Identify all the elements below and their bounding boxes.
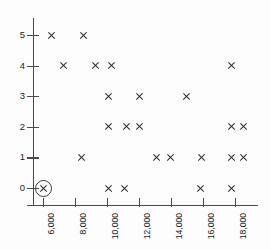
y-tick-2: [27, 127, 39, 128]
data-point[interactable]: [182, 92, 191, 101]
data-point[interactable]: [91, 61, 100, 70]
x-tick-label-16000: 16,000: [207, 213, 216, 239]
y-tick-1: [27, 157, 39, 158]
x-tick-label-18000: 18,000: [239, 213, 248, 239]
data-point[interactable]: [135, 92, 144, 101]
data-point[interactable]: [77, 153, 86, 162]
y-tick-label-3: 3: [12, 91, 25, 101]
x-tick-16000: [203, 198, 204, 207]
x-tick-14000: [171, 198, 172, 207]
x-tick-label-12000: 12,000: [143, 213, 152, 239]
data-point[interactable]: [59, 61, 68, 70]
y-tick-label-4: 4: [12, 61, 25, 71]
x-tick-12000: [139, 198, 140, 207]
data-point[interactable]: [104, 122, 113, 131]
data-point[interactable]: [135, 122, 144, 131]
y-tick-label-5: 5: [12, 30, 25, 40]
data-point[interactable]: [227, 153, 236, 162]
data-point[interactable]: [107, 61, 116, 70]
y-tick-label-0: 0: [12, 183, 25, 193]
data-point[interactable]: [227, 61, 236, 70]
data-point[interactable]: [79, 31, 88, 40]
data-point[interactable]: [196, 184, 205, 193]
data-point[interactable]: [104, 92, 113, 101]
x-tick-6000: [43, 198, 44, 207]
data-point[interactable]: [227, 184, 236, 193]
x-tick-8000: [75, 198, 76, 207]
x-tick-18000: [235, 198, 236, 207]
y-tick-4: [27, 66, 39, 67]
y-tick-label-2: 2: [12, 122, 25, 132]
x-tick-label-10000: 10,000: [111, 213, 120, 239]
x-tick-10000: [107, 198, 108, 207]
data-point[interactable]: [239, 122, 248, 131]
data-point[interactable]: [104, 184, 113, 193]
data-point-highlighted[interactable]: [39, 184, 48, 193]
data-point[interactable]: [47, 31, 56, 40]
data-point[interactable]: [120, 184, 129, 193]
data-point[interactable]: [122, 122, 131, 131]
x-tick-label-8000: 8,000: [79, 213, 88, 235]
scatter-plot: 012345 6,0008,00010,00012,00014,00016,00…: [0, 0, 271, 250]
y-tick-3: [27, 96, 39, 97]
data-point[interactable]: [152, 153, 161, 162]
y-tick-5: [27, 35, 39, 36]
data-point[interactable]: [239, 153, 248, 162]
x-tick-label-14000: 14,000: [175, 213, 184, 239]
y-axis-line: [33, 18, 34, 206]
data-point[interactable]: [197, 153, 206, 162]
data-point[interactable]: [166, 153, 175, 162]
x-tick-label-6000: 6,000: [47, 213, 56, 235]
data-point[interactable]: [227, 122, 236, 131]
x-axis-line: [27, 205, 258, 206]
y-tick-label-1: 1: [12, 152, 25, 162]
